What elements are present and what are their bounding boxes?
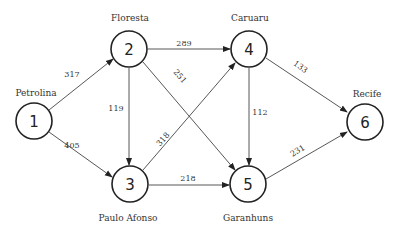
weight-1-2: 317 (64, 70, 79, 79)
node-1-city-label: Petrolina (15, 88, 57, 98)
node-2-city-label: Floresta (111, 13, 149, 23)
graph-diagram: 317 405 289 119 251 318 218 112 133 231 … (0, 0, 400, 232)
node-6-number: 6 (360, 114, 370, 132)
node-1-number: 1 (29, 113, 39, 131)
weight-2-5: 251 (172, 68, 189, 85)
edge-1-3 (49, 132, 112, 177)
node-4: 4 Caruaru (231, 13, 269, 67)
edge-5-6 (266, 132, 347, 179)
node-1: 1 Petrolina (15, 88, 57, 139)
node-3-number: 3 (125, 176, 135, 194)
node-2-number: 2 (124, 41, 134, 59)
node-5-city-label: Garanhuns (223, 213, 273, 223)
node-6: 6 Recife (347, 89, 383, 140)
node-2: 2 Floresta (111, 13, 150, 67)
weight-3-4: 318 (155, 131, 172, 148)
weight-3-5: 218 (180, 174, 195, 183)
node-4-city-label: Caruaru (231, 13, 269, 23)
weight-5-6: 231 (289, 143, 307, 159)
weight-2-3: 119 (108, 104, 123, 113)
node-3: 3 Paulo Afonso (99, 166, 158, 223)
node-3-city-label: Paulo Afonso (99, 213, 158, 223)
node-6-city-label: Recife (353, 89, 382, 99)
edge-1-2 (49, 59, 113, 110)
node-4-number: 4 (244, 41, 254, 59)
weight-1-3: 405 (64, 141, 79, 150)
weight-4-6: 133 (292, 59, 310, 75)
edge-weights: 317 405 289 119 251 318 218 112 133 231 (64, 39, 309, 183)
weight-2-4: 289 (176, 39, 191, 48)
node-5-number: 5 (243, 176, 253, 194)
weight-4-5: 112 (252, 108, 267, 117)
node-5: 5 Garanhuns (223, 166, 273, 223)
